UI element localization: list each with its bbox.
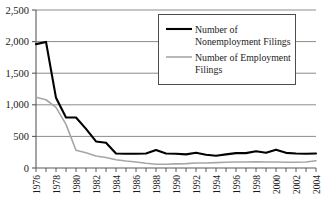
x-tick-label: 1994	[212, 175, 222, 194]
y-tick-label: 2,500	[5, 5, 29, 16]
y-tick-label: 0	[24, 163, 29, 174]
y-tick-label: 1,000	[5, 99, 29, 110]
line-chart: 05001,0001,5002,0002,500 197619781980198…	[0, 0, 322, 202]
y-tick-label: 500	[13, 131, 29, 142]
legend-label: Nonemployment Filings	[195, 36, 291, 47]
x-tick-label: 1998	[252, 175, 262, 194]
x-tick-labels: 1976197819801982198419861988199019921994…	[32, 175, 322, 194]
x-tick-label: 2000	[272, 175, 282, 194]
x-tick-label: 1990	[172, 175, 182, 194]
x-tick-label: 1980	[72, 175, 82, 194]
chart-canvas: 05001,0001,5002,0002,500 197619781980198…	[0, 0, 322, 202]
x-tick-label: 1992	[192, 175, 202, 194]
x-tick-label: 1988	[152, 175, 162, 194]
x-tick-label: 1978	[52, 175, 62, 194]
x-tick-label: 1984	[112, 175, 122, 194]
legend-label: Number of Employment	[195, 52, 291, 63]
x-tick-label: 2002	[292, 175, 302, 194]
x-tick-label: 2004	[312, 175, 322, 194]
y-tick-label: 1,500	[5, 68, 29, 79]
x-tick-label: 1982	[92, 175, 102, 194]
x-tick-label: 1986	[132, 175, 142, 194]
chart-legend: Number ofNonemployment FilingsNumber of …	[159, 15, 296, 85]
x-tick-label: 1996	[232, 175, 242, 194]
legend-label: Number of	[195, 24, 238, 35]
y-tick-label: 2,000	[5, 36, 29, 47]
legend-label: Filings	[195, 64, 222, 75]
x-tick-label: 1976	[32, 175, 42, 194]
